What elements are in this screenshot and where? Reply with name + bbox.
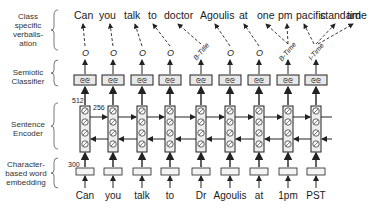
layer-label-semiotic-classifier: Semiotic Classifier	[6, 68, 50, 86]
svg-text:ᘓᘓ: ᘓᘓ	[137, 77, 147, 85]
input-token: Dr	[196, 190, 207, 201]
input-token: to	[166, 190, 174, 201]
class-tag: O	[139, 48, 146, 58]
class-tag: O	[256, 48, 263, 58]
layer-label-char-embedding: Character- based word embedding	[2, 160, 50, 187]
output-word: one	[257, 9, 275, 21]
svg-text:ᘓᘓ: ᘓᘓ	[225, 77, 235, 85]
svg-text:ᘓᘓ: ᘓᘓ	[165, 77, 175, 85]
class-tag: O	[167, 48, 174, 58]
output-word: Can	[74, 9, 93, 21]
output-word: pm	[278, 9, 293, 21]
output-word: talk	[124, 9, 140, 21]
input-token: you	[105, 190, 121, 201]
input-token: talk	[134, 190, 150, 201]
layer-label-sentence-encoder: Sentence Encoder	[6, 120, 50, 138]
dim-label-256: 256	[93, 104, 105, 111]
output-word: time	[347, 9, 367, 21]
svg-text:ᘓᘓ: ᘓᘓ	[283, 77, 293, 85]
svg-text:ᘓᘓ: ᘓᘓ	[80, 77, 90, 85]
input-token: Can	[76, 190, 94, 201]
class-tag: O	[82, 48, 89, 58]
output-word: you	[99, 9, 116, 21]
input-token: Agoulis	[214, 190, 247, 201]
output-word: Agoulis	[200, 9, 234, 21]
output-word: at	[239, 9, 248, 21]
dim-label-512: 512	[72, 97, 84, 104]
input-token: 1pm	[278, 190, 297, 201]
svg-text:ᘓᘓ: ᘓᘓ	[311, 77, 321, 85]
class-tag: O	[110, 48, 117, 58]
dim-label-300: 300	[68, 161, 80, 168]
input-token: at	[255, 190, 263, 201]
svg-text:ᘓᘓ: ᘓᘓ	[108, 77, 118, 85]
layer-braces	[51, 10, 58, 188]
layer-label-verbalisation: Class specific verbalis- ation	[8, 12, 48, 48]
svg-text:ᘓᘓ: ᘓᘓ	[196, 77, 206, 85]
svg-text:ᘓᘓ: ᘓᘓ	[254, 77, 264, 85]
class-tag: O	[227, 48, 234, 58]
output-word: to	[148, 9, 157, 21]
architecture-diagram: ᘓᘓᘓᘓᘓᘓᘓᘓᘓᘓᘓᘓᘓᘓᘓᘓᘓᘓ	[0, 0, 373, 214]
output-word: doctor	[164, 9, 193, 21]
input-token: PST	[306, 190, 325, 201]
